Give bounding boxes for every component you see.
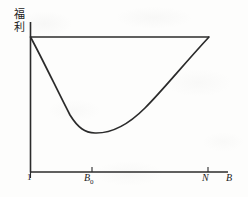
tick-label-b0: B0 <box>84 172 94 186</box>
plot-area <box>0 0 248 197</box>
tick-label-b0-subscript: 0 <box>90 178 94 186</box>
y-axis-title-char-2: 利 <box>11 22 27 35</box>
tick-label-n: N <box>202 172 209 183</box>
welfare-figure: 福 利 1 B0 N B <box>0 0 248 197</box>
y-axis-title-char-1: 福 <box>11 9 27 22</box>
y-axis-title: 福 利 <box>11 9 27 34</box>
x-axis-title: B <box>226 172 232 183</box>
tick-label-origin: 1 <box>27 172 32 182</box>
welfare-curve <box>31 37 210 133</box>
